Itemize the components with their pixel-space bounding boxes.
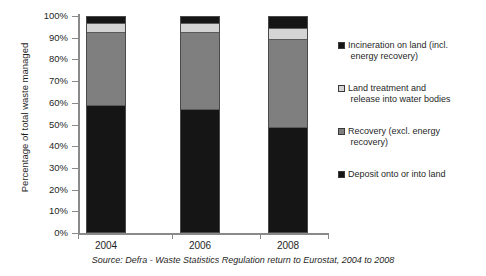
bar-2006	[180, 16, 220, 233]
bar-segment	[87, 23, 125, 32]
bar-2004	[86, 16, 126, 233]
bar-segment	[181, 109, 219, 232]
plot-area	[78, 16, 326, 233]
x-axis-tick	[172, 233, 173, 239]
x-axis-tick	[260, 233, 261, 239]
legend-item-label: Deposit onto or into land	[348, 169, 446, 180]
legend-item-label: Recovery (excl. energy recovery)	[348, 126, 440, 148]
bar-segment	[87, 105, 125, 232]
x-axis-tick-label: 2008	[258, 240, 318, 251]
bar-segment	[87, 32, 125, 105]
y-axis-tick-label: 60%	[28, 97, 68, 108]
legend-swatch-icon	[338, 171, 345, 178]
y-axis-tick-label: 40%	[28, 140, 68, 151]
bar-segment	[181, 32, 219, 109]
legend-item[interactable]: Recovery (excl. energy recovery)	[338, 126, 486, 148]
bar-segment	[269, 28, 307, 39]
legend-item-label: Land treatment and release into water bo…	[348, 83, 451, 105]
x-axis-tick	[78, 233, 79, 239]
bar-segment	[269, 17, 307, 28]
y-axis-tick-label: 20%	[28, 184, 68, 195]
legend-swatch-icon	[338, 128, 345, 135]
legend-swatch-icon	[338, 85, 345, 92]
y-axis-tick-label: 50%	[28, 119, 68, 130]
y-axis-tick-label: 80%	[28, 53, 68, 64]
legend-item[interactable]: Land treatment and release into water bo…	[338, 83, 486, 105]
y-axis-tick-label: 10%	[28, 205, 68, 216]
legend-swatch-icon	[338, 42, 345, 49]
x-axis-tick	[328, 233, 329, 239]
y-axis-tick-label: 100%	[28, 10, 68, 21]
stacked-bar-chart: Percentage of total waste managed 100%90…	[0, 0, 486, 276]
chart-legend: Incineration on land (incl. energy recov…	[338, 40, 486, 201]
bar-segment	[181, 23, 219, 32]
legend-item[interactable]: Incineration on land (incl. energy recov…	[338, 40, 486, 62]
x-axis-tick-label: 2006	[170, 240, 230, 251]
source-note: Source: Defra - Waste Statistics Regulat…	[0, 255, 486, 265]
bar-segment	[269, 39, 307, 127]
y-axis-tick-label: 70%	[28, 75, 68, 86]
y-axis-tick-label: 30%	[28, 162, 68, 173]
legend-item-label: Incineration on land (incl. energy recov…	[348, 40, 448, 62]
bar-2008	[268, 16, 308, 233]
y-axis-tick-label: 90%	[28, 32, 68, 43]
y-axis-tick-label: 0%	[28, 227, 68, 238]
bar-segment	[269, 127, 307, 232]
legend-item[interactable]: Deposit onto or into land	[338, 169, 486, 180]
x-axis-tick-label: 2004	[76, 240, 136, 251]
x-axis-line	[78, 233, 328, 235]
